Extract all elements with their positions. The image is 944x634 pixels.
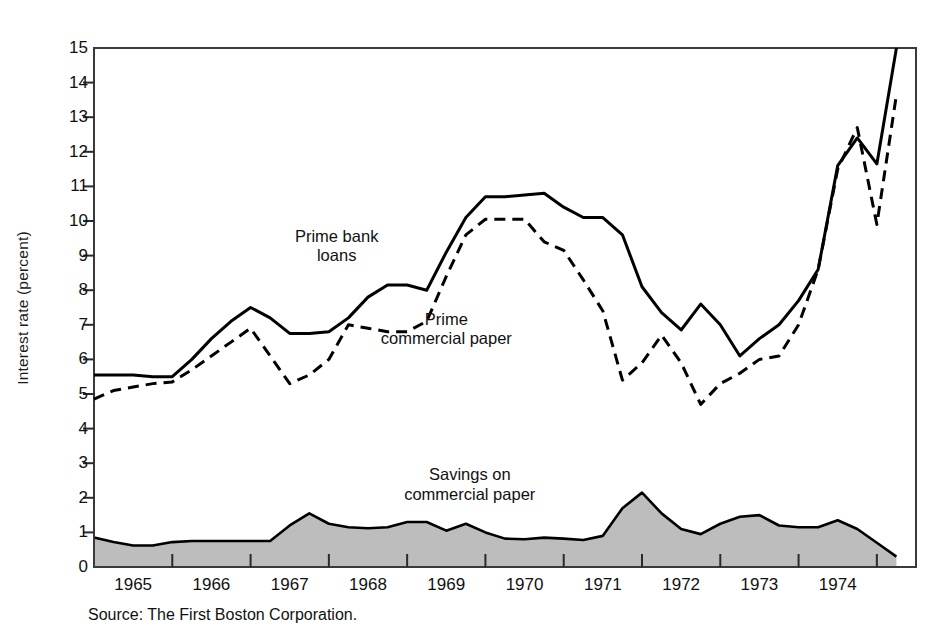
x-tick-label: 1971 bbox=[584, 575, 622, 595]
y-tick-label: 12 bbox=[42, 142, 88, 162]
y-tick-label: 6 bbox=[42, 349, 88, 369]
y-tick-label: 11 bbox=[42, 176, 88, 196]
y-tick-label: 15 bbox=[42, 38, 88, 58]
x-tick-label: 1972 bbox=[662, 575, 700, 595]
y-tick-label: 5 bbox=[42, 384, 88, 404]
y-axis-title: Interest rate (percent) bbox=[8, 48, 38, 567]
annotation-savings-on-commercial-paper: Savings on commercial paper bbox=[404, 465, 535, 504]
rate-line-series bbox=[94, 48, 896, 404]
y-axis-tick-labels: 0123456789101112131415 bbox=[38, 0, 88, 634]
x-tick-label: 1970 bbox=[506, 575, 544, 595]
x-tick-label: 1974 bbox=[819, 575, 857, 595]
y-tick-label: 13 bbox=[42, 107, 88, 127]
y-tick-label: 4 bbox=[42, 419, 88, 439]
source-note: Source: The First Boston Corporation. bbox=[88, 606, 357, 624]
x-tick-label: 1967 bbox=[271, 575, 309, 595]
x-tick-label: 1973 bbox=[741, 575, 779, 595]
series-prime-commercial-paper bbox=[94, 95, 896, 405]
y-tick-label: 2 bbox=[42, 488, 88, 508]
y-tick-label: 3 bbox=[42, 453, 88, 473]
annotation-prime-bank-loans: Prime bank loans bbox=[295, 227, 378, 266]
x-tick-label: 1968 bbox=[349, 575, 387, 595]
x-tick-label: 1965 bbox=[114, 575, 152, 595]
y-axis-title-text: Interest rate (percent) bbox=[14, 231, 32, 385]
x-tick-label: 1966 bbox=[193, 575, 231, 595]
annotation-prime-commercial-paper: Prime commercial paper bbox=[381, 310, 512, 349]
x-tick-label: 1969 bbox=[427, 575, 465, 595]
y-tick-label: 9 bbox=[42, 246, 88, 266]
y-tick-label: 0 bbox=[42, 557, 88, 577]
y-tick-label: 10 bbox=[42, 211, 88, 231]
chart-figure: Interest rate (percent) 0123456789101112… bbox=[0, 0, 944, 634]
y-tick-label: 8 bbox=[42, 280, 88, 300]
y-tick-label: 1 bbox=[42, 522, 88, 542]
y-tick-label: 14 bbox=[42, 73, 88, 93]
y-tick-label: 7 bbox=[42, 315, 88, 335]
x-axis-tick-labels: 1965196619671968196919701971197219731974 bbox=[0, 575, 944, 601]
